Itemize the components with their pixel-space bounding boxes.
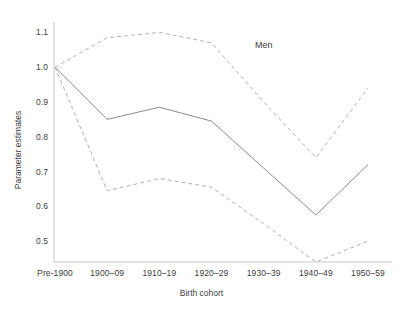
data-series-group (55, 32, 368, 262)
series-line-0 (55, 67, 368, 215)
y-tick-label: 0.8 (22, 132, 48, 142)
figure-container: 1.11.00.90.80.70.60.5 Pre-19001900–09191… (0, 0, 403, 313)
y-axis-title: Parameter estimates (13, 80, 23, 220)
series-line-1 (55, 32, 368, 157)
x-tick-label: 1910–19 (142, 268, 176, 278)
y-tick-label: 0.6 (22, 201, 48, 211)
series-annotation-men: Men (255, 40, 273, 50)
y-tick-label: 0.9 (22, 97, 48, 107)
chart-plot-area (0, 0, 403, 313)
x-axis-title: Birth cohort (0, 288, 403, 298)
x-tick-label: 1900–09 (90, 268, 124, 278)
y-tick-label: 0.5 (22, 236, 48, 246)
y-tick-label: 1.0 (22, 62, 48, 72)
y-tick-label: 1.1 (22, 27, 48, 37)
x-tick-label: 1940–49 (299, 268, 333, 278)
x-tick-label: 1950–59 (351, 268, 385, 278)
x-tick-label: 1920–29 (195, 268, 229, 278)
y-tick-label: 0.7 (22, 167, 48, 177)
x-tick-label: Pre-1900 (37, 268, 73, 278)
series-line-2 (55, 67, 368, 262)
axis-lines (54, 22, 392, 262)
x-tick-label: 1930–39 (247, 268, 281, 278)
